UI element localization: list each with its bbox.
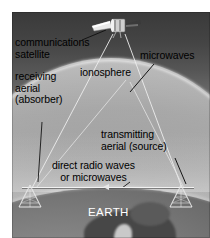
- communications-satellite-icon: [90, 15, 146, 39]
- propagation-diagram-figure: communications satellite microwaves iono…: [0, 0, 210, 238]
- label-communications-satellite: communications satellite: [15, 37, 89, 60]
- transmitting-aerial-tower: [168, 184, 194, 210]
- label-direct-radio-waves: direct radio waves or microwaves: [52, 160, 135, 183]
- label-earth: EARTH: [88, 207, 129, 219]
- label-ionosphere: ionosphere: [80, 67, 131, 79]
- receiving-aerial-tower: [17, 184, 43, 210]
- label-receiving-aerial: receiving aerial (absorber): [15, 71, 62, 106]
- diagram-scene: communications satellite microwaves iono…: [12, 12, 210, 238]
- label-transmitting-aerial: transmitting aerial (source): [101, 129, 167, 152]
- label-microwaves: microwaves: [140, 50, 194, 62]
- direct-path-arrow-icon: [103, 184, 109, 190]
